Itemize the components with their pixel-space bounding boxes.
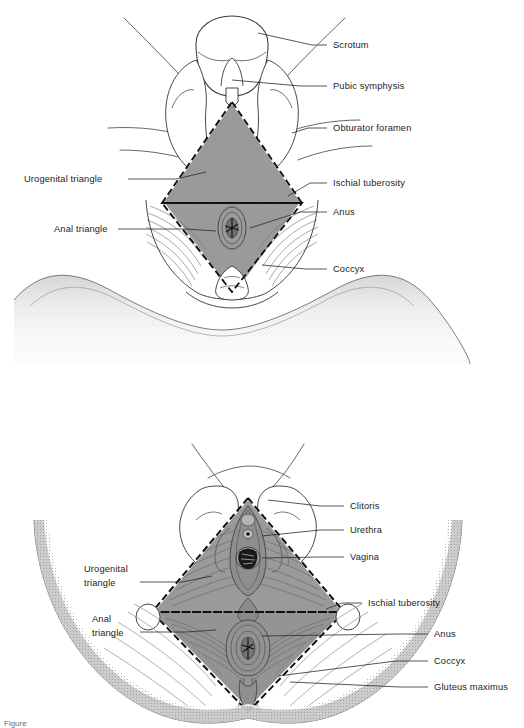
label-gluteus-maximus: Gluteus maximus xyxy=(434,682,508,692)
figure-caption-fragment: Figure xyxy=(4,719,27,728)
label-ischial-tuberosity: Ischial tuberosity xyxy=(333,178,405,188)
female-thigh-outlines xyxy=(192,444,304,492)
label-coccyx-female: Coccyx xyxy=(434,656,466,666)
label-anal-triangle-female-line2: triangle xyxy=(92,628,124,638)
label-anus: Anus xyxy=(333,207,355,217)
label-ischial-tuberosity-female: Ischial tuberosity xyxy=(368,598,440,608)
label-coccyx: Coccyx xyxy=(333,264,365,274)
label-urogenital-triangle-female-line1: Urogenital xyxy=(84,564,128,574)
anatomy-plate-root: Scrotum Pubic symphysis Obturator forame… xyxy=(0,0,524,728)
label-urogenital-triangle-female-line2: triangle xyxy=(84,578,116,588)
anus-female xyxy=(226,620,270,676)
anatomy-plate-svg: Scrotum Pubic symphysis Obturator forame… xyxy=(0,0,524,728)
clitoris-shape xyxy=(241,514,255,526)
label-vagina: Vagina xyxy=(350,552,380,562)
label-anal-triangle-female-line1: Anal xyxy=(92,614,111,624)
label-urethra: Urethra xyxy=(350,525,383,535)
label-urogenital-triangle: Urogenital triangle xyxy=(24,174,102,184)
label-anus-female: Anus xyxy=(434,629,456,639)
label-anal-triangle: Anal triangle xyxy=(54,224,108,234)
female-perineum-group: Clitoris Urethra Vagina Ischial tuberosi… xyxy=(34,444,508,723)
label-pubic-symphysis: Pubic symphysis xyxy=(333,81,405,91)
male-perineum-group: Scrotum Pubic symphysis Obturator forame… xyxy=(0,16,524,372)
label-scrotum: Scrotum xyxy=(333,40,369,50)
buttock-stipple-top xyxy=(0,262,524,372)
vagina-shape xyxy=(236,547,260,569)
scrotum-shape xyxy=(196,16,268,96)
label-clitoris: Clitoris xyxy=(350,501,380,511)
label-obturator-foramen: Obturator foramen xyxy=(333,123,412,133)
